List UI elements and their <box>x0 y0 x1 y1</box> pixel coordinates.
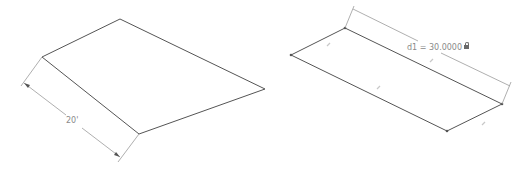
vertex-point[interactable] <box>446 130 449 133</box>
right-extension-line-start <box>345 6 354 28</box>
constraint-glyph-icon[interactable] <box>482 122 485 125</box>
drawing-canvas <box>0 0 530 174</box>
left-dimension-line-b[interactable] <box>82 128 120 157</box>
left-sketch <box>21 19 265 162</box>
right-sketch <box>290 6 511 132</box>
right-extension-line-end <box>502 82 511 104</box>
dimension-expression: d1 = 30.0000 <box>407 43 462 52</box>
left-dimension-line-a[interactable] <box>24 83 66 115</box>
right-dimension-label[interactable]: d1 = 30.0000 <box>407 43 469 52</box>
vertex-point[interactable] <box>290 54 293 57</box>
left-extension-line-bottom <box>118 134 139 162</box>
right-shape-outline[interactable] <box>291 28 502 131</box>
right-dimension-line-b[interactable] <box>441 53 510 86</box>
lock-icon <box>464 45 469 49</box>
constraint-glyph-icon[interactable] <box>327 43 330 46</box>
left-extension-line-top <box>21 57 42 86</box>
constraint-glyph-icon[interactable] <box>377 86 380 89</box>
constraint-glyph-icon[interactable] <box>430 59 433 62</box>
left-dimension-label[interactable]: 20' <box>66 116 78 125</box>
